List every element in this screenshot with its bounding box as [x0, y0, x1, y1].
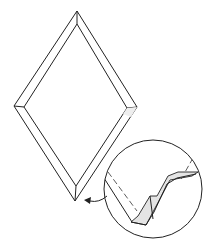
outer-diamond: [14, 11, 137, 201]
folding-diagram: [0, 0, 213, 248]
detail-magnifier: [104, 140, 202, 238]
corner-miter-lines: [14, 11, 137, 201]
detail-arrow: [84, 196, 107, 204]
detail-circle: [104, 140, 202, 238]
right-corner-shade: [123, 107, 137, 117]
arrowhead-icon: [84, 197, 91, 204]
inner-diamond: [24, 24, 127, 186]
folded-strip: [131, 172, 198, 225]
diagram-canvas: [0, 0, 213, 248]
